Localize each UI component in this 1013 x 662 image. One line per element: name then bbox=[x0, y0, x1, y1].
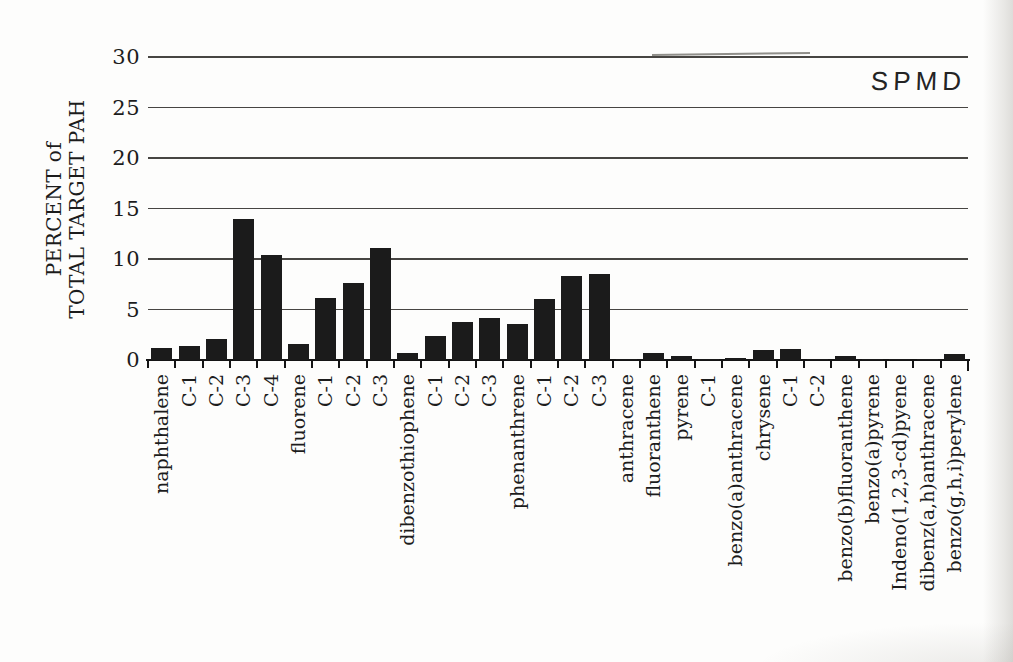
y-axis-title-line2: TOTAL TARGET PAH bbox=[66, 69, 89, 349]
bar bbox=[288, 344, 309, 360]
y-tick-label: 30 bbox=[92, 44, 140, 70]
gridline-25 bbox=[148, 107, 968, 108]
x-category-label: Indeno(1,2,3-cd)pyene bbox=[889, 374, 910, 644]
x-axis-tick bbox=[858, 361, 860, 368]
y-tick-label: 0 bbox=[92, 347, 140, 373]
bar bbox=[589, 274, 610, 360]
x-axis-tick bbox=[666, 361, 668, 368]
x-axis-tick bbox=[475, 361, 477, 368]
x-axis-tick bbox=[748, 361, 750, 368]
x-axis-tick bbox=[940, 361, 942, 368]
bar bbox=[233, 219, 254, 360]
x-category-label: C-2 bbox=[561, 374, 582, 644]
x-category-label: C-2 bbox=[452, 374, 473, 644]
bar bbox=[397, 353, 418, 360]
x-category-label: chrysene bbox=[753, 374, 774, 644]
bar bbox=[452, 322, 473, 360]
x-axis-tick bbox=[448, 361, 450, 368]
x-category-label: C-1 bbox=[780, 374, 801, 644]
x-axis-tick bbox=[694, 361, 696, 368]
bar bbox=[343, 283, 364, 360]
x-axis-tick bbox=[338, 361, 340, 368]
spmd-bar-chart: PERCENT of TOTAL TARGET PAH SPMD 0510152… bbox=[0, 0, 1013, 662]
x-axis-tick bbox=[420, 361, 422, 368]
bar bbox=[753, 350, 774, 360]
bar bbox=[862, 359, 883, 360]
gridline-30 bbox=[148, 56, 968, 57]
x-axis-tick bbox=[202, 361, 204, 368]
y-tick-label: 5 bbox=[92, 297, 140, 323]
series-label-spmd: SPMD bbox=[861, 66, 966, 97]
x-category-label: C-3 bbox=[233, 374, 254, 644]
x-axis-tick bbox=[776, 361, 778, 368]
x-axis-tick bbox=[639, 361, 641, 368]
x-category-label: benzo(a)anthracene bbox=[725, 374, 746, 644]
x-axis-tick bbox=[229, 361, 231, 368]
bar bbox=[835, 356, 856, 360]
x-axis-tick bbox=[366, 361, 368, 368]
x-axis-tick bbox=[502, 361, 504, 368]
bar bbox=[944, 354, 965, 360]
gridline-20 bbox=[148, 157, 968, 158]
x-axis-tick bbox=[147, 361, 149, 368]
x-category-label: anthracene bbox=[616, 374, 637, 644]
bar bbox=[616, 359, 637, 360]
scan-gridline-smudge bbox=[652, 52, 810, 56]
y-tick-label: 25 bbox=[92, 95, 140, 121]
x-axis-tick bbox=[256, 361, 258, 368]
x-category-label: fluorene bbox=[288, 374, 309, 644]
y-tick-label: 10 bbox=[92, 246, 140, 272]
x-axis-tick bbox=[393, 361, 395, 368]
scan-edge-shadow-right bbox=[983, 0, 1013, 662]
x-axis-tick bbox=[830, 361, 832, 368]
x-category-label: C-2 bbox=[807, 374, 828, 644]
x-category-label: dibenzothiophene bbox=[397, 374, 418, 644]
x-category-label: phenanthrene bbox=[507, 374, 528, 644]
x-category-label: C-2 bbox=[206, 374, 227, 644]
x-axis-tick bbox=[530, 361, 532, 368]
x-axis-tick bbox=[885, 361, 887, 368]
bar bbox=[206, 339, 227, 360]
bar bbox=[534, 299, 555, 360]
x-category-label: C-3 bbox=[370, 374, 391, 644]
bar bbox=[261, 255, 282, 360]
bar bbox=[671, 356, 692, 360]
x-axis-tick bbox=[311, 361, 313, 368]
x-axis-tick bbox=[284, 361, 286, 368]
bar bbox=[780, 349, 801, 360]
bar bbox=[315, 298, 336, 360]
x-category-label: C-1 bbox=[315, 374, 336, 644]
bar bbox=[151, 348, 172, 360]
x-category-label: naphthalene bbox=[151, 374, 172, 644]
bar bbox=[698, 359, 719, 360]
x-category-label: pyrene bbox=[671, 374, 692, 644]
x-category-label: benzo(g,h,i)perylene bbox=[944, 374, 965, 644]
y-tick-label: 15 bbox=[92, 196, 140, 222]
bar bbox=[370, 248, 391, 360]
y-axis-title: PERCENT of TOTAL TARGET PAH bbox=[43, 69, 89, 349]
x-axis-tick bbox=[612, 361, 614, 368]
bar bbox=[507, 324, 528, 360]
bar bbox=[561, 276, 582, 360]
gridline-15 bbox=[148, 208, 968, 209]
x-category-label: C-1 bbox=[425, 374, 446, 644]
bar bbox=[917, 359, 938, 360]
x-category-label: C-1 bbox=[179, 374, 200, 644]
bar bbox=[179, 346, 200, 360]
bar bbox=[725, 358, 746, 360]
x-axis-tick bbox=[557, 361, 559, 368]
y-axis-title-line1: PERCENT of bbox=[43, 69, 66, 349]
x-category-label: dibenz(a,h)anthracene bbox=[917, 374, 938, 644]
x-axis-tick bbox=[584, 361, 586, 368]
bar bbox=[479, 318, 500, 360]
x-axis-tick bbox=[174, 361, 176, 368]
x-category-label: C-1 bbox=[534, 374, 555, 644]
x-category-label: benzo(b)fluoranthene bbox=[835, 374, 856, 644]
x-category-label: C-3 bbox=[479, 374, 500, 644]
bar bbox=[889, 359, 910, 360]
x-category-label: benzo(a)pyrene bbox=[862, 374, 883, 644]
x-category-label: fluoranthene bbox=[643, 374, 664, 644]
y-tick-label: 20 bbox=[92, 145, 140, 171]
x-category-label: C-2 bbox=[343, 374, 364, 644]
x-category-label: C-3 bbox=[589, 374, 610, 644]
